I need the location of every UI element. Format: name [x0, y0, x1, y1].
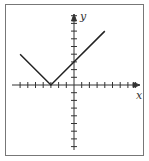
y-axis [72, 14, 77, 150]
y-axis-label: y [79, 10, 87, 23]
x-axis [12, 83, 140, 88]
data-line [20, 31, 105, 85]
x-axis-label: x [136, 89, 143, 102]
chart-plot: x y [0, 0, 149, 161]
axis-ticks [20, 16, 136, 147]
